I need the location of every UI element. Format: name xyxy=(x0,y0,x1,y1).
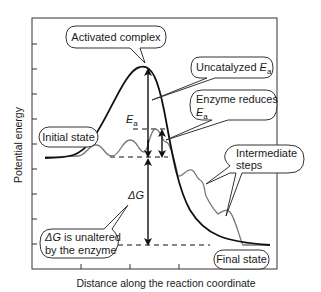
svg-text:ΔG is unaltered: ΔG is unaltered xyxy=(44,231,121,243)
reference-dashed-lines xyxy=(110,129,210,245)
y-axis-ticks xyxy=(32,44,37,244)
energy-diagram: Distance along the reaction coordinate P… xyxy=(0,0,321,292)
svg-text:Initial state: Initial state xyxy=(42,131,95,143)
callout-enzyme-reduces-ea: Enzyme reduces Ea xyxy=(166,90,278,140)
svg-text:Final state: Final state xyxy=(216,253,267,265)
callout-activated-complex: Activated complex xyxy=(66,26,166,63)
y-axis-label: Potential energy xyxy=(12,106,24,183)
x-axis-ticks xyxy=(81,264,228,269)
delta-g-annotation: ΔG xyxy=(127,189,144,201)
callout-final-state: Final state xyxy=(214,250,269,269)
x-axis-label: Distance along the reaction coordinate xyxy=(76,277,255,289)
svg-text:Activated complex: Activated complex xyxy=(71,31,161,43)
ea-annotation: Ea xyxy=(126,113,138,128)
svg-text:Enzyme reduces: Enzyme reduces xyxy=(196,93,278,105)
callout-intermediate-steps: Intermediate steps xyxy=(206,145,304,216)
callout-delta-g-unaltered: ΔG is unaltered by the enzyme xyxy=(40,205,128,258)
svg-text:steps: steps xyxy=(236,159,263,171)
callout-initial-state: Initial state xyxy=(39,127,98,147)
svg-text:by the enzyme: by the enzyme xyxy=(45,244,117,256)
svg-text:Intermediate: Intermediate xyxy=(236,147,297,159)
